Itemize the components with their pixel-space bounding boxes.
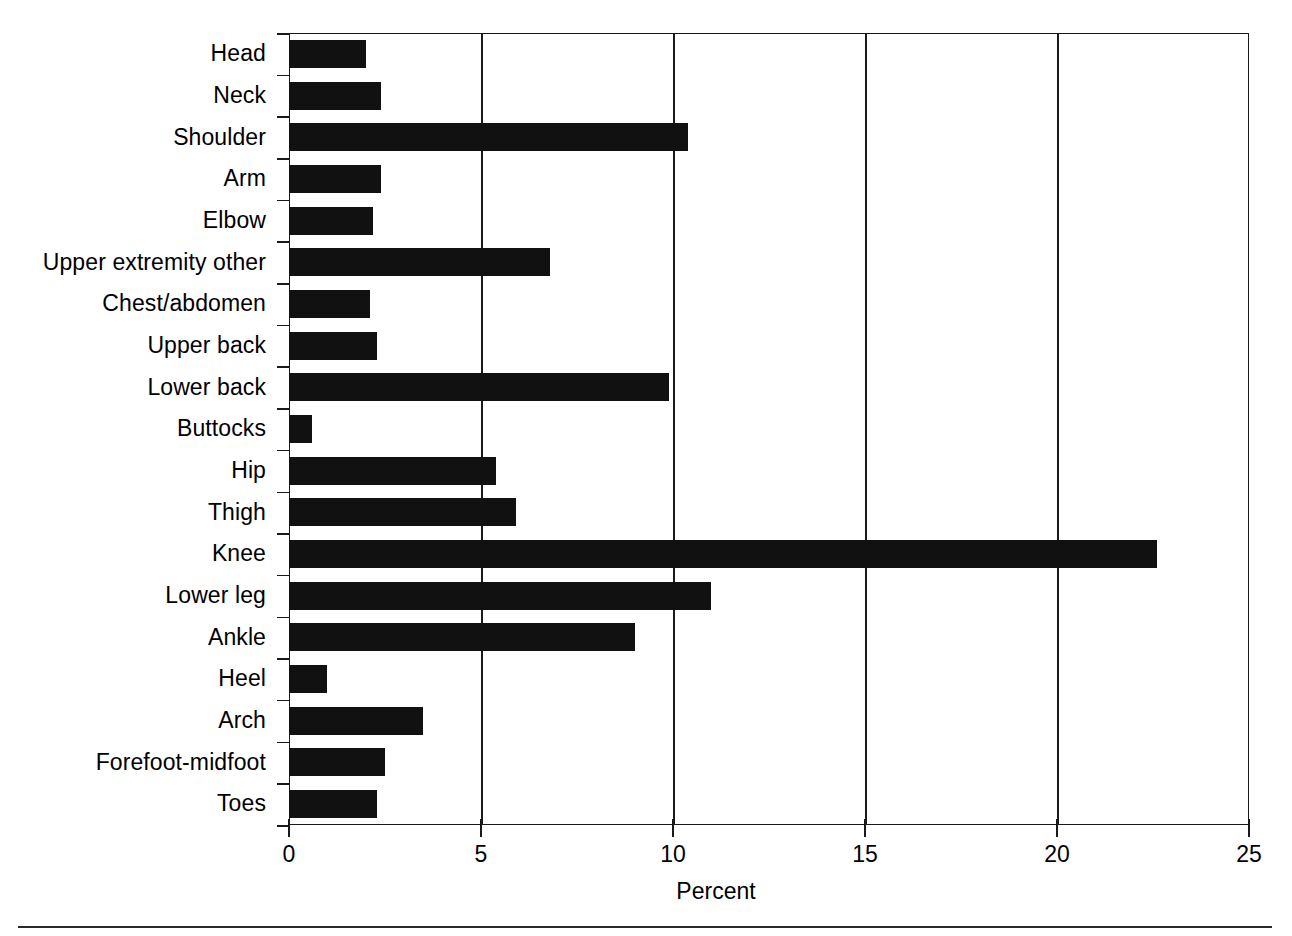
bar-row	[289, 366, 1249, 408]
y-axis-label: Head	[0, 33, 282, 75]
y-axis-tick	[277, 825, 289, 827]
bar-row	[289, 491, 1249, 533]
y-axis-label: Buttocks	[0, 408, 282, 450]
bar	[289, 290, 370, 318]
y-axis-label: Neck	[0, 75, 282, 117]
bar	[289, 498, 516, 526]
bar-row	[289, 75, 1249, 117]
y-axis-label: Ankle	[0, 616, 282, 658]
x-axis-tick-15	[864, 819, 866, 837]
bar	[289, 123, 688, 151]
x-axis-title-text: Percent	[676, 878, 755, 904]
bar-row	[289, 700, 1249, 742]
bar	[289, 82, 381, 110]
bar	[289, 748, 385, 776]
chart-figure: HeadNeckShoulderArmElbowUpper extremity …	[0, 0, 1292, 936]
y-axis-label: Lower leg	[0, 575, 282, 617]
bar-row	[289, 116, 1249, 158]
bar	[289, 790, 377, 818]
y-axis-label: Upper extremity other	[0, 241, 282, 283]
bar	[289, 623, 635, 651]
y-axis-label: Toes	[0, 783, 282, 825]
y-axis-label: Knee	[0, 533, 282, 575]
x-axis-ticks	[289, 825, 1249, 837]
bar	[289, 665, 327, 693]
y-axis-label: Forefoot-midfoot	[0, 741, 282, 783]
y-axis-label: Chest/abdomen	[0, 283, 282, 325]
y-axis-label: Heel	[0, 658, 282, 700]
x-axis-tick-20	[1056, 819, 1058, 837]
bar	[289, 207, 373, 235]
x-axis-tick-10	[672, 819, 674, 837]
bar-row	[289, 783, 1249, 825]
bar	[289, 165, 381, 193]
y-axis-label: Elbow	[0, 200, 282, 242]
y-axis-label: Lower back	[0, 366, 282, 408]
y-axis-label: Hip	[0, 450, 282, 492]
bar-row	[289, 158, 1249, 200]
bar	[289, 707, 423, 735]
x-axis-title: Percent	[0, 878, 1292, 905]
x-axis-tick-5	[480, 819, 482, 837]
x-axis-tick-label: 15	[852, 841, 878, 868]
x-axis-tick-label: 20	[1044, 841, 1070, 868]
bar	[289, 248, 550, 276]
x-axis-tick-0	[288, 819, 290, 837]
x-axis-tick-label: 5	[475, 841, 488, 868]
bar	[289, 582, 711, 610]
bar-row	[289, 616, 1249, 658]
bar-row	[289, 200, 1249, 242]
bar-series	[289, 33, 1249, 825]
bar-row	[289, 241, 1249, 283]
bar-row	[289, 658, 1249, 700]
y-axis-labels: HeadNeckShoulderArmElbowUpper extremity …	[0, 33, 282, 825]
x-axis-tick-label: 0	[283, 841, 296, 868]
x-axis-tick-label: 10	[660, 841, 686, 868]
bar	[289, 415, 312, 443]
bar-row	[289, 408, 1249, 450]
bar-row	[289, 575, 1249, 617]
footer-rule	[18, 926, 1272, 928]
x-axis-tick-labels: 0510152025	[0, 841, 1292, 875]
bar	[289, 332, 377, 360]
bar-row	[289, 33, 1249, 75]
x-axis-tick-25	[1248, 819, 1250, 837]
bar-row	[289, 450, 1249, 492]
x-axis-tick-label: 25	[1236, 841, 1262, 868]
bar	[289, 457, 496, 485]
y-axis-label: Arm	[0, 158, 282, 200]
y-axis-label: Thigh	[0, 491, 282, 533]
bar-row	[289, 741, 1249, 783]
y-axis-label: Shoulder	[0, 116, 282, 158]
y-axis-label: Upper back	[0, 325, 282, 367]
bar-row	[289, 325, 1249, 367]
y-axis-label: Arch	[0, 700, 282, 742]
bar	[289, 540, 1157, 568]
bar	[289, 373, 669, 401]
bar-row	[289, 533, 1249, 575]
bar	[289, 40, 366, 68]
bar-row	[289, 283, 1249, 325]
